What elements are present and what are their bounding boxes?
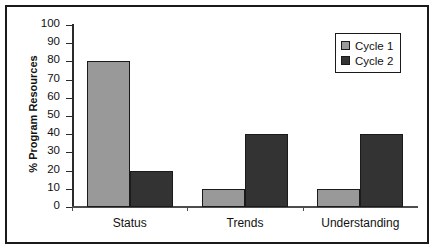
bar-cycle-2-trends bbox=[245, 134, 288, 207]
legend-swatch-icon bbox=[341, 41, 350, 50]
y-tick-label: 40 bbox=[20, 126, 60, 138]
y-tick-label: 30 bbox=[20, 144, 60, 156]
chart-figure: % Program Resources 01020304050607080901… bbox=[0, 0, 436, 251]
y-tick-label: 70 bbox=[20, 72, 60, 84]
chart-legend: Cycle 1Cycle 2 bbox=[335, 33, 401, 73]
legend-label: Cycle 2 bbox=[355, 55, 393, 67]
bar-cycle-1-trends bbox=[202, 189, 245, 207]
bar-cycle-1-understanding bbox=[317, 189, 360, 207]
y-tick-label: 10 bbox=[20, 181, 60, 193]
category-label-trends: Trends bbox=[187, 216, 302, 230]
legend-swatch-icon bbox=[341, 56, 350, 65]
bar-cycle-2-understanding bbox=[360, 134, 403, 207]
y-tick-label: 90 bbox=[20, 35, 60, 47]
category-label-understanding: Understanding bbox=[303, 216, 418, 230]
y-tick-label: 60 bbox=[20, 90, 60, 102]
category-label-status: Status bbox=[72, 216, 187, 230]
y-tick-label: 100 bbox=[20, 17, 60, 29]
y-tick-label: 80 bbox=[20, 53, 60, 65]
y-tick-label: 50 bbox=[20, 108, 60, 120]
bar-cycle-2-status bbox=[130, 171, 173, 207]
legend-label: Cycle 1 bbox=[355, 40, 393, 52]
bar-cycle-1-status bbox=[87, 61, 130, 207]
y-tick-label: 0 bbox=[20, 199, 60, 211]
legend-item-cycle-1[interactable]: Cycle 1 bbox=[341, 38, 393, 53]
legend-item-cycle-2[interactable]: Cycle 2 bbox=[341, 53, 393, 68]
y-tick-label: 20 bbox=[20, 163, 60, 175]
